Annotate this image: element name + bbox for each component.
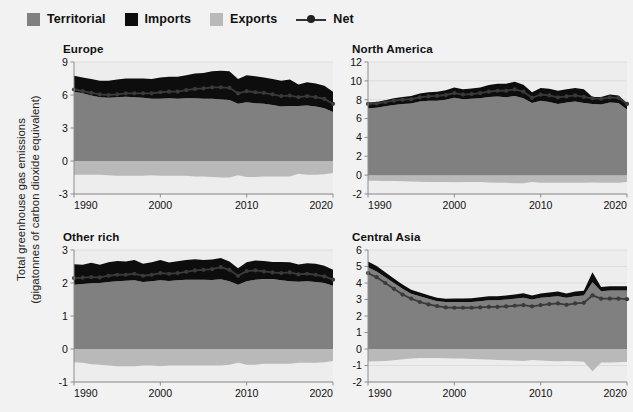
net-data-point: [322, 97, 326, 101]
y-tick-label: 10: [350, 75, 362, 87]
net-data-point: [461, 306, 465, 310]
net-data-point: [435, 304, 439, 308]
imports-swatch-icon: [125, 13, 138, 26]
net-data-point: [530, 96, 534, 100]
y-tick-label: 1: [356, 326, 362, 338]
net-data-point: [375, 275, 379, 279]
net-data-point: [375, 101, 379, 105]
net-data-point: [608, 297, 612, 301]
legend-label-exports: Exports: [230, 12, 277, 26]
net-data-point: [167, 90, 171, 94]
net-data-point: [98, 92, 102, 96]
net-data-point: [530, 304, 534, 308]
net-data-point: [305, 272, 309, 276]
net-data-point: [184, 88, 188, 92]
net-data-point: [322, 274, 326, 278]
y-tick-label: 2: [356, 150, 362, 162]
net-data-point: [470, 92, 474, 96]
y-tick-label: 6: [62, 89, 68, 101]
net-data-point: [115, 273, 119, 277]
net-data-point: [201, 86, 205, 90]
x-tick-label: 2010: [529, 199, 553, 211]
y-tick-label: 5: [356, 260, 362, 272]
panel-europe: Europe -303691990200020102020: [44, 42, 339, 202]
y-tick-label: 3: [356, 293, 362, 305]
net-data-point: [409, 97, 413, 101]
net-data-point: [582, 95, 586, 99]
net-data-point: [245, 269, 249, 273]
panel-title-europe: Europe: [63, 42, 104, 55]
net-data-point: [150, 273, 154, 277]
net-data-point: [435, 94, 439, 98]
net-data-point: [400, 292, 404, 296]
net-data-point: [461, 92, 465, 96]
net-data-point: [210, 267, 214, 271]
net-data-point: [236, 91, 240, 95]
net-data-point: [279, 94, 283, 98]
net-data-point: [106, 93, 110, 97]
y-tick-label: -3: [59, 188, 69, 200]
chart-legend: Territorial Imports Exports Net: [0, 0, 633, 38]
net-data-point: [158, 90, 162, 94]
net-data-point: [89, 91, 93, 95]
net-data-point: [599, 97, 603, 101]
legend-label-territorial: Territorial: [47, 12, 106, 26]
net-data-point: [547, 302, 551, 306]
net-data-point: [305, 94, 309, 98]
net-data-point: [158, 271, 162, 275]
net-data-point: [184, 270, 188, 274]
y-tick-label: 3: [62, 244, 68, 256]
net-data-point: [599, 297, 603, 301]
net-data-point: [556, 301, 560, 305]
net-data-point: [426, 302, 430, 306]
net-data-point: [418, 300, 422, 304]
legend-label-net: Net: [333, 12, 353, 26]
net-data-point: [201, 268, 205, 272]
net-data-point: [608, 95, 612, 99]
net-data-point: [270, 92, 274, 96]
y-axis-title: Total greenhouse gas emissions (gigatonn…: [15, 50, 42, 350]
y-axis-title-line1: Total greenhouse gas emissions: [15, 50, 29, 350]
y-tick-label: 8: [356, 94, 362, 106]
net-data-point: [478, 305, 482, 309]
net-data-point: [98, 275, 102, 279]
net-data-point: [539, 303, 543, 307]
net-data-point: [89, 275, 93, 279]
net-data-point: [573, 301, 577, 305]
y-tick-label: 0: [356, 169, 362, 181]
net-data-point: [409, 297, 413, 301]
net-data-point: [521, 303, 525, 307]
y-tick-label: 6: [356, 112, 362, 124]
net-data-point: [296, 95, 300, 99]
net-data-point: [227, 86, 231, 90]
panel-title-other-rich: Other rich: [63, 230, 119, 243]
net-data-point: [513, 87, 517, 91]
net-data-point: [288, 93, 292, 97]
net-data-point: [193, 268, 197, 272]
net-data-point: [564, 94, 568, 98]
x-tick-label: 2020: [309, 387, 333, 399]
net-data-point: [616, 96, 620, 100]
net-data-point: [106, 274, 110, 278]
net-data-point: [253, 90, 257, 94]
panel-title-central-asia: Central Asia: [352, 230, 420, 243]
net-data-point: [331, 278, 335, 282]
y-axis-title-line2: (gigatonnes of carbon dioxide equivalent…: [28, 50, 42, 350]
net-data-point: [132, 91, 136, 95]
net-data-point: [167, 272, 171, 276]
plot-north-america: -20246810121990200020102020: [338, 56, 633, 216]
net-data-point: [495, 89, 499, 93]
panel-title-north-america: North America: [352, 42, 433, 55]
net-data-point: [590, 96, 594, 100]
y-tick-label: 1: [62, 310, 68, 322]
net-data-point: [616, 297, 620, 301]
x-tick-label: 2000: [149, 199, 173, 211]
net-data-point: [219, 85, 223, 89]
y-tick-label: 9: [62, 56, 68, 68]
net-data-point: [314, 273, 318, 277]
net-data-point: [392, 99, 396, 103]
territorial-swatch-icon: [27, 13, 40, 26]
net-data-point: [573, 93, 577, 97]
y-tick-label: -1: [59, 376, 69, 388]
net-data-point: [124, 273, 128, 277]
